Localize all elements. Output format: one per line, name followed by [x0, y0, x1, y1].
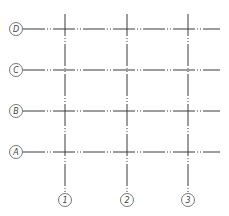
row-lines: [23, 29, 220, 152]
row-bubble-a: A: [10, 146, 23, 159]
row-label-b: B: [13, 107, 19, 116]
grid-diagram: D C B A 1 2 3: [0, 0, 229, 216]
column-bubbles: 1 2 3: [59, 194, 195, 207]
column-label-1: 1: [62, 196, 67, 205]
column-lines: [65, 14, 188, 193]
column-bubble-3: 3: [182, 194, 195, 207]
column-label-2: 2: [124, 196, 129, 205]
column-label-3: 3: [185, 196, 190, 205]
row-bubble-b: B: [10, 105, 23, 118]
row-label-d: D: [13, 25, 19, 34]
row-bubble-d: D: [10, 23, 23, 36]
row-bubble-c: C: [10, 64, 23, 77]
row-label-c: C: [13, 66, 19, 75]
column-bubble-2: 2: [121, 194, 134, 207]
column-bubble-1: 1: [59, 194, 72, 207]
row-label-a: A: [12, 148, 18, 157]
row-bubbles: D C B A: [10, 23, 23, 159]
